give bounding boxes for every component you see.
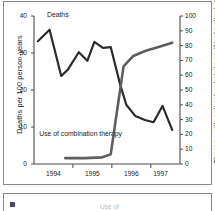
series-line: [65, 43, 172, 158]
chart-svg: [4, 2, 213, 186]
series-line: [38, 30, 172, 130]
series-lines: [38, 30, 172, 158]
chart-plot-area: Deaths per 100 person-years Therapy with…: [4, 2, 211, 184]
axis-lines: [31, 16, 183, 168]
chart-panel-a: Deaths per 100 person-years Therapy with…: [3, 1, 212, 185]
chart-panel-b: Use of: [3, 193, 212, 211]
square-marker-icon: [10, 202, 15, 207]
panel-b-partial-label: Use of: [100, 203, 119, 210]
